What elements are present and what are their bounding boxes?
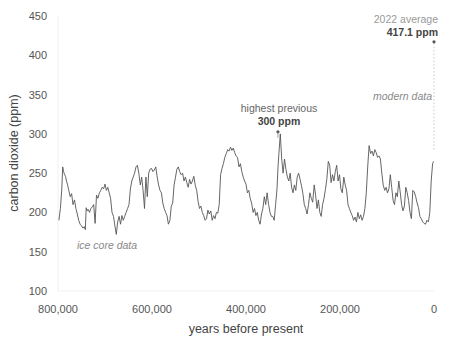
y-tick-label: 450 [29,10,47,22]
current-annotation-line1: 2022 average [374,13,438,25]
peak-annotation-line2: 300 ppm [258,115,301,127]
peak-annotation-line1: highest previous [241,102,317,114]
x-axis-ticks: 800,000600,000400,000200,0000 [38,303,437,315]
x-axis-label: years before present [189,322,304,336]
y-tick-label: 150 [29,246,47,258]
y-tick-label: 250 [29,167,47,179]
current-annotation-line2: 417.1 ppm [387,26,438,38]
y-tick-label: 400 [29,49,47,61]
ice-core-annotation: ice core data [77,239,137,251]
x-tick-label: 0 [431,303,437,315]
y-tick-label: 350 [29,89,47,101]
y-axis-ticks: 100150200250300350400450 [29,10,47,297]
y-axis-label: carbon dioxide (ppm) [7,94,21,211]
y-tick-label: 100 [29,285,47,297]
ice-core-data-line [59,134,434,235]
x-tick-label: 600,000 [132,303,172,315]
y-tick-label: 200 [29,206,47,218]
current-marker [432,40,435,43]
co2-line-chart: 100150200250300350400450 800,000600,0004… [0,0,450,348]
x-tick-label: 800,000 [38,303,78,315]
x-tick-label: 200,000 [320,303,360,315]
modern-data-annotation: modern data [373,90,432,102]
x-tick-label: 400,000 [226,303,266,315]
y-tick-label: 300 [29,128,47,140]
